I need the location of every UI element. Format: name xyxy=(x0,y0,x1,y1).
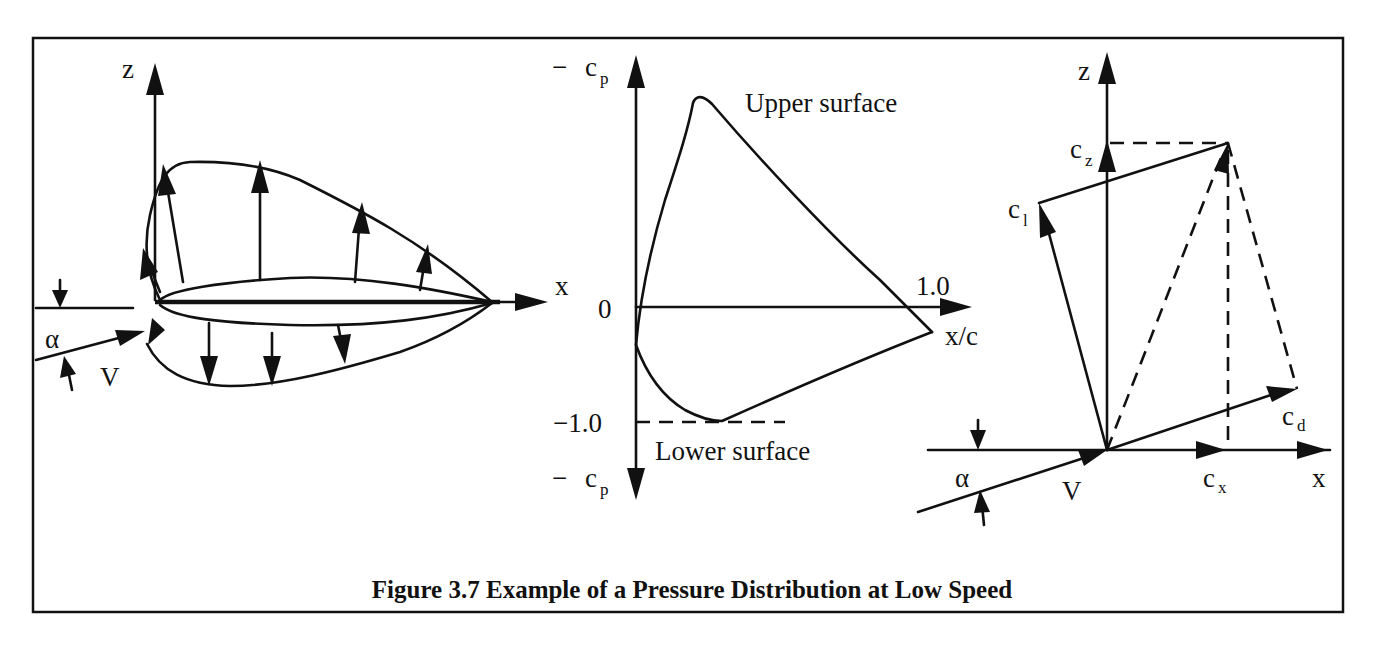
left-airfoil-diagram: z x xyxy=(36,54,569,392)
z-axis-arrowhead-icon xyxy=(146,63,164,95)
right-x-arrowhead-icon xyxy=(1297,441,1328,459)
right-freestream-arrowhead-icon xyxy=(1078,450,1107,466)
stagnation-arrow-icon xyxy=(148,318,165,345)
left-x-label: x xyxy=(555,271,569,301)
cl-label-sub: l xyxy=(1023,211,1028,230)
cz-label-c: c xyxy=(1070,134,1082,164)
force-resolution-diagram: z c z x c x c l c d xyxy=(918,52,1330,525)
pressure-distribution-chart: − c p − c p 0 −1.0 1.0 x/c Upper surface… xyxy=(552,52,978,500)
cp-axis-down-arrow-icon xyxy=(627,468,645,500)
cx-label-c: c xyxy=(1203,463,1215,493)
pressure-arrow-icon xyxy=(200,356,218,386)
figure-caption: Figure 3.7 Example of a Pressure Distrib… xyxy=(372,576,1012,603)
cl-arrowhead-icon xyxy=(1039,203,1056,238)
figure-canvas: z x xyxy=(0,0,1384,647)
cx-label-sub: x xyxy=(1218,478,1227,497)
cl-label-c: c xyxy=(1008,194,1020,224)
lower-surface-label: Lower surface xyxy=(655,436,810,466)
right-alpha-label: α xyxy=(955,463,969,493)
cp-bottom-prefix: − xyxy=(552,463,567,493)
left-z-label: z xyxy=(122,54,134,84)
cp-top-prefix: − xyxy=(552,52,567,82)
cd-parallel-dashed xyxy=(1228,143,1297,389)
x-axis-arrowhead-icon xyxy=(515,293,548,311)
cx-arrowhead-icon xyxy=(1196,441,1226,459)
airfoil-lower-surface xyxy=(160,303,492,325)
alpha-marker-top-icon xyxy=(52,290,68,308)
xc-axis-label: x/c xyxy=(945,321,978,351)
cp-bottom-sub: p xyxy=(600,480,609,499)
left-velocity-label: V xyxy=(100,362,120,392)
right-velocity-label: V xyxy=(1062,476,1082,506)
resultant-dashed xyxy=(1107,155,1222,450)
cp-top-sub: p xyxy=(600,69,609,88)
airfoil-upper-surface xyxy=(160,278,492,302)
alpha-marker-bottom-icon xyxy=(60,356,76,378)
pressure-arrow-icon xyxy=(333,334,351,364)
upper-surface-label: Upper surface xyxy=(745,88,897,118)
lower-surface-curve xyxy=(636,332,932,421)
tick-zero: 0 xyxy=(598,294,612,324)
cp-axis-up-arrow-icon xyxy=(627,55,645,88)
cp-top-c: c xyxy=(585,52,597,82)
tick-x-one: 1.0 xyxy=(916,271,950,301)
freestream-arrowhead-icon xyxy=(115,330,145,346)
suction-arrow-icon xyxy=(251,160,269,193)
right-alpha-top-icon xyxy=(970,430,986,450)
right-z-arrowhead-icon xyxy=(1098,52,1116,84)
upper-pressure-envelope xyxy=(147,162,492,302)
right-z-label: z xyxy=(1078,56,1090,86)
cd-label-sub: d xyxy=(1297,416,1306,435)
tick-minus-one: −1.0 xyxy=(553,408,602,438)
cd-label-c: c xyxy=(1282,401,1294,431)
cl-to-resultant-line xyxy=(1039,143,1228,203)
cd-arrowhead-icon xyxy=(1266,386,1297,402)
left-alpha-label: α xyxy=(45,324,59,354)
cz-label-sub: z xyxy=(1085,151,1093,170)
cd-vector-line xyxy=(1107,392,1280,450)
cl-vector-line xyxy=(1044,215,1107,450)
cp-bottom-c: c xyxy=(585,463,597,493)
cz-arrowhead-icon xyxy=(1098,140,1116,172)
right-x-label: x xyxy=(1312,463,1326,493)
